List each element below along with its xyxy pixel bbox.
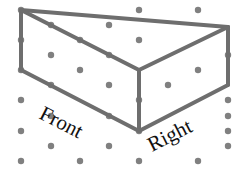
grid-dot bbox=[225, 128, 231, 134]
grid-dot bbox=[225, 143, 231, 149]
grid-dot bbox=[195, 7, 201, 13]
grid-dot bbox=[48, 143, 54, 149]
grid-dot bbox=[106, 82, 112, 88]
grid-dot bbox=[136, 7, 142, 13]
grid-dot bbox=[225, 97, 231, 103]
grid-dot bbox=[18, 158, 24, 164]
grid-dot bbox=[195, 158, 201, 164]
right-face-label: Right bbox=[143, 114, 196, 157]
grid-dot bbox=[77, 67, 83, 73]
grid-dot bbox=[106, 143, 112, 149]
grid-dot bbox=[195, 67, 201, 73]
grid-dot bbox=[165, 82, 171, 88]
grid-dot bbox=[48, 52, 54, 58]
grid-dot bbox=[106, 22, 112, 28]
front-face-label: Front bbox=[36, 101, 88, 143]
grid-dot bbox=[18, 128, 24, 134]
grid-dot bbox=[18, 97, 24, 103]
grid-dot bbox=[136, 158, 142, 164]
grid-dot bbox=[77, 158, 83, 164]
grid-dot bbox=[136, 37, 142, 43]
isometric-prism-diagram: Front Right bbox=[0, 0, 234, 172]
prism-edge bbox=[139, 27, 228, 70]
grid-dot bbox=[225, 113, 231, 119]
